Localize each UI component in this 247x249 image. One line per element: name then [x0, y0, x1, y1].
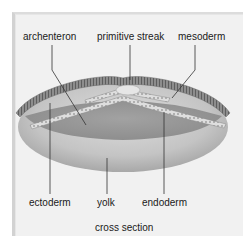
label-archenteron: archenteron	[23, 31, 76, 43]
label-ectoderm: ectoderm	[29, 197, 71, 209]
label-primitive-streak: primitive streak	[97, 31, 164, 43]
label-mesoderm: mesoderm	[178, 31, 225, 43]
label-yolk: yolk	[97, 197, 115, 209]
label-endoderm: endoderm	[142, 197, 187, 209]
figure-caption: cross section	[95, 222, 153, 234]
primitive-streak-shape	[116, 85, 140, 95]
